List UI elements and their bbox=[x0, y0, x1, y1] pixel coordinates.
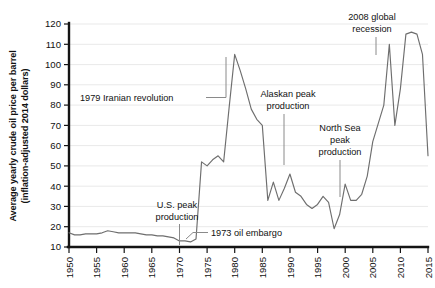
leader-line bbox=[186, 233, 193, 240]
oil-price-series-line bbox=[69, 32, 428, 242]
oil-price-chart: 120 110 100 90 80 70 60 50 40 30 20 10 A… bbox=[0, 0, 435, 288]
y-axis-label-line1: Average yearly crude oil price per barre… bbox=[8, 50, 18, 221]
y-tick-labels: 120 110 100 90 80 70 60 50 40 30 20 10 bbox=[45, 18, 61, 252]
x-tick-label: 1950 bbox=[64, 257, 75, 278]
annotation-label: 2008 global bbox=[348, 12, 396, 22]
x-tick-label: 1990 bbox=[285, 257, 296, 278]
y-tick-label: 20 bbox=[50, 221, 61, 232]
x-tick-label: 2015 bbox=[423, 257, 434, 278]
x-tick-label: 1970 bbox=[174, 257, 185, 278]
y-axis-label-line2: (inflation-adjusted 2014 dollars) bbox=[20, 68, 30, 203]
x-tick-label: 1995 bbox=[312, 257, 323, 278]
y-tick-label: 110 bbox=[46, 39, 61, 50]
annotation-label: Alaskan peak bbox=[260, 89, 316, 99]
annotation-alaskan-peak-production: Alaskan peak production bbox=[260, 89, 316, 165]
y-axis-label: Average yearly crude oil price per barre… bbox=[8, 50, 30, 221]
y-tick-label: 30 bbox=[50, 201, 61, 212]
y-tick-label: 90 bbox=[50, 79, 61, 90]
annotation-label: recession bbox=[352, 24, 391, 34]
annotation-label: production bbox=[319, 147, 362, 157]
annotation-label: 1979 Iranian revolution bbox=[80, 93, 173, 103]
annotation-iranian-revolution: 1979 Iranian revolution bbox=[80, 57, 226, 103]
y-axis: 120 110 100 90 80 70 60 50 40 30 20 10 bbox=[45, 18, 69, 252]
annotation-oil-embargo-1973: 1973 oil embargo bbox=[186, 228, 282, 239]
x-tick-label: 1975 bbox=[202, 257, 213, 278]
x-tick-label: 2005 bbox=[367, 257, 378, 278]
x-tick-label: 2010 bbox=[395, 257, 406, 278]
chart-svg: 120 110 100 90 80 70 60 50 40 30 20 10 A… bbox=[0, 0, 435, 288]
annotation-us-peak-production: U.S. peak production bbox=[156, 200, 199, 245]
x-tick-labels: 1950 1955 1960 1965 1970 1975 1980 1985 … bbox=[64, 257, 434, 278]
annotation-label: North Sea bbox=[319, 123, 361, 133]
annotation-label: U.S. peak bbox=[157, 200, 198, 210]
gridlines bbox=[69, 24, 428, 227]
y-tick-label: 50 bbox=[50, 160, 61, 171]
x-tick-label: 1965 bbox=[146, 257, 157, 278]
x-tick-label: 2000 bbox=[340, 257, 351, 278]
y-tick-label: 40 bbox=[50, 181, 61, 192]
y-tick-label: 100 bbox=[45, 59, 61, 70]
y-tick-label: 10 bbox=[50, 241, 61, 252]
annotation-label: production bbox=[267, 101, 310, 111]
y-tick-label: 80 bbox=[50, 99, 61, 110]
annotation-label: production bbox=[156, 212, 199, 222]
x-tick-label: 1985 bbox=[257, 257, 268, 278]
annotation-label: 1973 oil embargo bbox=[211, 228, 282, 238]
x-tick-label: 1960 bbox=[119, 257, 130, 278]
x-axis: 1950 1955 1960 1965 1970 1975 1980 1985 … bbox=[64, 247, 434, 278]
x-tick-label: 1955 bbox=[91, 257, 102, 278]
x-tick-label: 1980 bbox=[229, 257, 240, 278]
y-tick-label: 70 bbox=[50, 120, 61, 131]
y-tick-label: 120 bbox=[45, 18, 61, 29]
y-tick-label: 60 bbox=[50, 140, 61, 151]
annotation-label: peak bbox=[330, 135, 350, 145]
